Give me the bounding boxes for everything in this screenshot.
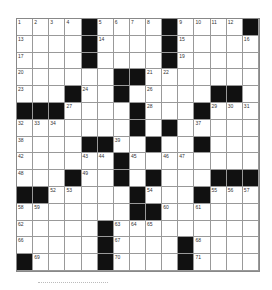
grid-cell[interactable]: 52 [49, 187, 65, 204]
grid-cell[interactable] [33, 153, 49, 170]
grid-cell[interactable] [227, 36, 243, 53]
grid-cell[interactable] [33, 53, 49, 70]
grid-cell[interactable]: 29 [211, 103, 227, 120]
grid-cell[interactable]: 67 [114, 237, 130, 254]
grid-cell[interactable] [243, 221, 259, 238]
grid-cell[interactable]: 44 [98, 153, 114, 170]
grid-cell[interactable] [65, 36, 81, 53]
grid-cell[interactable]: 64 [130, 221, 146, 238]
grid-cell[interactable] [243, 86, 259, 103]
grid-cell[interactable] [130, 86, 146, 103]
grid-cell[interactable]: 20 [17, 69, 33, 86]
grid-cell[interactable] [227, 204, 243, 221]
grid-cell[interactable]: 63 [114, 221, 130, 238]
grid-cell[interactable] [130, 53, 146, 70]
grid-cell[interactable] [98, 86, 114, 103]
grid-cell[interactable] [194, 86, 210, 103]
grid-cell[interactable] [243, 137, 259, 154]
grid-cell[interactable]: 61 [194, 204, 210, 221]
grid-cell[interactable] [211, 120, 227, 137]
grid-cell[interactable] [98, 204, 114, 221]
grid-cell[interactable]: 47 [178, 153, 194, 170]
grid-cell[interactable]: 54 [146, 187, 162, 204]
grid-cell[interactable]: 9 [178, 19, 194, 36]
grid-cell[interactable] [227, 137, 243, 154]
grid-cell[interactable] [211, 204, 227, 221]
grid-cell[interactable] [243, 153, 259, 170]
grid-cell[interactable] [211, 153, 227, 170]
grid-cell[interactable] [49, 69, 65, 86]
grid-cell[interactable]: 4 [65, 19, 81, 36]
grid-cell[interactable] [114, 103, 130, 120]
grid-cell[interactable] [130, 170, 146, 187]
grid-cell[interactable] [162, 187, 178, 204]
grid-cell[interactable] [49, 204, 65, 221]
grid-cell[interactable] [98, 187, 114, 204]
grid-cell[interactable] [33, 170, 49, 187]
grid-cell[interactable] [49, 36, 65, 53]
grid-cell[interactable] [162, 137, 178, 154]
grid-cell[interactable] [227, 221, 243, 238]
grid-cell[interactable] [194, 36, 210, 53]
grid-cell[interactable]: 48 [17, 170, 33, 187]
grid-cell[interactable] [130, 137, 146, 154]
grid-cell[interactable] [194, 221, 210, 238]
grid-cell[interactable] [49, 254, 65, 271]
grid-cell[interactable]: 1 [17, 19, 33, 36]
grid-cell[interactable]: 17 [17, 53, 33, 70]
grid-cell[interactable] [227, 120, 243, 137]
grid-cell[interactable] [98, 170, 114, 187]
grid-cell[interactable] [114, 53, 130, 70]
grid-cell[interactable] [82, 204, 98, 221]
grid-cell[interactable] [162, 254, 178, 271]
grid-cell[interactable]: 27 [65, 103, 81, 120]
grid-cell[interactable]: 70 [114, 254, 130, 271]
grid-cell[interactable]: 5 [98, 19, 114, 36]
grid-cell[interactable] [211, 69, 227, 86]
grid-cell[interactable]: 68 [194, 237, 210, 254]
grid-cell[interactable] [146, 53, 162, 70]
grid-cell[interactable] [98, 69, 114, 86]
grid-cell[interactable]: 38 [17, 137, 33, 154]
grid-cell[interactable] [178, 221, 194, 238]
grid-cell[interactable]: 46 [162, 153, 178, 170]
grid-cell[interactable]: 26 [146, 86, 162, 103]
grid-cell[interactable]: 2 [33, 19, 49, 36]
grid-cell[interactable] [178, 170, 194, 187]
grid-cell[interactable] [227, 153, 243, 170]
grid-cell[interactable]: 62 [17, 221, 33, 238]
grid-cell[interactable] [146, 237, 162, 254]
grid-cell[interactable] [82, 237, 98, 254]
grid-cell[interactable]: 53 [65, 187, 81, 204]
grid-cell[interactable] [65, 137, 81, 154]
grid-cell[interactable] [146, 254, 162, 271]
grid-cell[interactable] [98, 53, 114, 70]
grid-cell[interactable] [227, 237, 243, 254]
grid-cell[interactable]: 11 [211, 19, 227, 36]
grid-cell[interactable] [33, 69, 49, 86]
grid-cell[interactable] [194, 53, 210, 70]
grid-cell[interactable]: 14 [98, 36, 114, 53]
grid-cell[interactable] [243, 204, 259, 221]
grid-cell[interactable] [114, 120, 130, 137]
grid-cell[interactable]: 21 [146, 69, 162, 86]
grid-cell[interactable]: 58 [17, 204, 33, 221]
grid-cell[interactable] [130, 254, 146, 271]
grid-cell[interactable] [98, 103, 114, 120]
grid-cell[interactable]: 59 [33, 204, 49, 221]
grid-cell[interactable] [82, 120, 98, 137]
grid-cell[interactable] [243, 69, 259, 86]
grid-cell[interactable] [243, 254, 259, 271]
grid-cell[interactable]: 8 [146, 19, 162, 36]
grid-cell[interactable] [178, 137, 194, 154]
grid-cell[interactable] [211, 221, 227, 238]
grid-cell[interactable]: 55 [211, 187, 227, 204]
grid-cell[interactable]: 24 [82, 86, 98, 103]
grid-cell[interactable]: 28 [146, 103, 162, 120]
grid-cell[interactable] [49, 53, 65, 70]
grid-cell[interactable] [178, 103, 194, 120]
grid-cell[interactable] [130, 237, 146, 254]
grid-cell[interactable]: 15 [178, 36, 194, 53]
grid-cell[interactable] [82, 221, 98, 238]
grid-cell[interactable]: 45 [130, 153, 146, 170]
